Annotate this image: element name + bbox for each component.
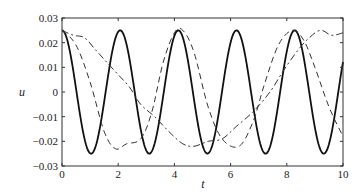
x-tick-label: 6 bbox=[228, 168, 234, 180]
y-tick-label: 0.01 bbox=[39, 61, 58, 73]
x-axis-label: t bbox=[201, 177, 205, 191]
line-chart: 0246810 0.030.020.010−0.01−0.02−0.03 t u bbox=[0, 0, 362, 192]
y-tick-label: 0.03 bbox=[39, 12, 59, 24]
y-tick-label: −0.03 bbox=[33, 160, 59, 172]
x-tick-label: 2 bbox=[115, 168, 121, 180]
y-tick-label: 0 bbox=[53, 86, 59, 98]
series-dash-dot bbox=[62, 30, 343, 146]
x-tick-label: 4 bbox=[172, 168, 178, 180]
x-axis-ticks: 0246810 bbox=[59, 18, 349, 180]
y-tick-label: 0.02 bbox=[39, 37, 58, 49]
series-solid bbox=[62, 30, 343, 153]
y-tick-label: −0.01 bbox=[33, 111, 58, 123]
plot-series bbox=[62, 28, 343, 153]
x-tick-label: 0 bbox=[59, 168, 65, 180]
y-axis-label: u bbox=[19, 85, 25, 99]
x-tick-label: 10 bbox=[338, 168, 350, 180]
x-tick-label: 8 bbox=[284, 168, 290, 180]
y-tick-label: −0.02 bbox=[33, 135, 58, 147]
